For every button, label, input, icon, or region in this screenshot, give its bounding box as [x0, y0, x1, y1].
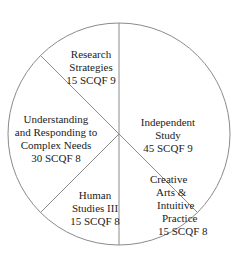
- slice-label-research-strategies: Research Strategies 15 SCQF 9: [66, 48, 116, 87]
- slice-label-understanding: Understanding and Responding to Complex …: [15, 113, 98, 165]
- slice-label-independent-study: Independent Study 45 SCQF 9: [141, 116, 195, 155]
- slice-label-creative-arts: Creative Arts & Intuitive Practice 15 SC…: [150, 173, 208, 238]
- slice-label-human-studies: Human Studies III 15 SCQF 8: [70, 189, 120, 228]
